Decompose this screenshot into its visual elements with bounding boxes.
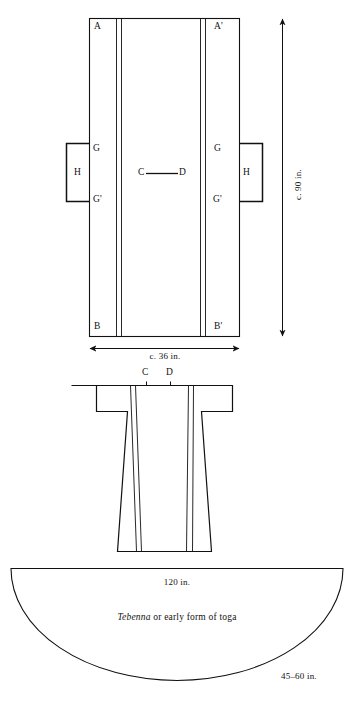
label-arm-bottom-right: G': [213, 195, 222, 205]
tebenna-caption-italic: Tebenna: [117, 612, 150, 622]
flat-pattern-group: [67, 19, 283, 349]
tunic-seam-right-outer: [193, 386, 194, 552]
tunic-seam-right-inner: [187, 386, 189, 552]
figure-root: A A' B B' G G' G G' H H C D c. 36 in. c.…: [0, 0, 354, 709]
label-tebenna-radius-dimension: 45–60 in.: [281, 672, 317, 681]
label-width-dimension: c. 36 in.: [150, 352, 181, 361]
label-corner-b-prime: B': [214, 322, 222, 332]
label-corner-b: B: [94, 322, 101, 332]
label-tebenna-top-dimension: 120 in.: [164, 578, 190, 587]
label-neck-c: C: [138, 168, 145, 178]
pattern-outline-rect: [90, 19, 240, 337]
label-corner-a-prime: A': [214, 22, 223, 32]
label-arm-bottom-left: G': [93, 195, 102, 205]
tunic-outline: [72, 386, 233, 552]
label-tebenna-caption: Tebenna or early form of toga: [117, 613, 236, 623]
tunic-seam-left-inner: [136, 386, 142, 552]
label-arm-piece-right: H: [243, 168, 250, 178]
label-height-dimension: c. 90 in.: [294, 169, 303, 200]
tebenna-caption-rest: or early form of toga: [151, 612, 237, 622]
label-corner-a: A: [94, 22, 101, 32]
tunic-seam-left-outer: [131, 386, 137, 552]
label-arm-top-right: G: [214, 144, 221, 154]
label-arm-top-left: G: [93, 144, 100, 154]
label-neck-d: D: [179, 168, 186, 178]
label-tunic-neck-c: C: [142, 368, 149, 378]
assembled-tunic-group: [72, 382, 233, 552]
label-arm-piece-left: H: [74, 168, 81, 178]
label-tunic-neck-d: D: [166, 368, 173, 378]
